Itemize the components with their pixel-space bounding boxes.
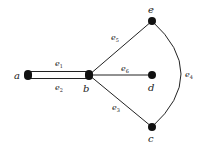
edge-label-e6: e6 — [121, 64, 129, 74]
edge-e3 — [89, 75, 152, 127]
node-label-d: d — [148, 82, 154, 93]
node-label-c: c — [148, 133, 154, 144]
node-a — [24, 70, 32, 80]
edge-label-e4: e4 — [185, 70, 193, 80]
graph-diagram: a b e d c e1 e2 e5 e6 e3 e4 — [0, 0, 207, 148]
node-d — [148, 71, 156, 79]
node-b — [85, 70, 93, 80]
edge-label-e1: e1 — [55, 59, 63, 69]
edge-label-e3: e3 — [112, 103, 120, 113]
node-e — [148, 17, 156, 25]
edge-e4 — [152, 21, 181, 127]
edge-label-e2: e2 — [55, 83, 63, 93]
edge-label-e5: e5 — [111, 33, 119, 43]
node-label-b: b — [83, 83, 89, 94]
node-c — [148, 123, 156, 131]
node-label-a: a — [14, 70, 20, 81]
node-label-e: e — [148, 4, 154, 15]
